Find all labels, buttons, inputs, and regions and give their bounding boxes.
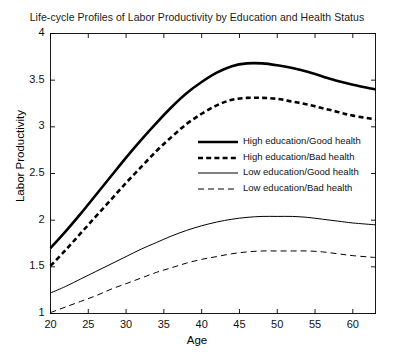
x-tick-label: 25: [68, 318, 108, 330]
x-tick-label: 20: [31, 318, 71, 330]
x-tick-label: 40: [182, 318, 222, 330]
chart-figure: Life-cycle Profiles of Labor Productivit…: [0, 0, 394, 356]
x-tick-label: 45: [219, 318, 259, 330]
legend-label: High education/Bad health: [243, 151, 354, 162]
legend-line-sample: [198, 150, 238, 166]
plot-canvas: [0, 0, 394, 356]
x-tick-label: 30: [106, 318, 146, 330]
x-tick-label: 35: [144, 318, 184, 330]
y-tick-label: 4: [7, 26, 45, 38]
x-tick-label: 55: [295, 318, 335, 330]
legend-label: Low education/Good health: [243, 166, 359, 177]
legend-line-sample: [198, 165, 238, 181]
y-tick-label: 1.5: [7, 259, 45, 271]
series-line-3: [51, 251, 376, 313]
series-line-2: [51, 216, 376, 293]
y-tick-label: 2: [7, 213, 45, 225]
legend-line-sample: [198, 181, 238, 197]
x-tick-label: 50: [257, 318, 297, 330]
y-tick-label: 2.5: [7, 166, 45, 178]
legend-line-sample: [198, 134, 238, 150]
y-tick-label: 3: [7, 119, 45, 131]
legend-label: High education/Good health: [243, 135, 361, 146]
legend-label: Low education/Bad health: [243, 182, 352, 193]
x-tick-label: 60: [333, 318, 373, 330]
y-tick-label: 1: [7, 306, 45, 318]
y-tick-label: 3.5: [7, 73, 45, 85]
